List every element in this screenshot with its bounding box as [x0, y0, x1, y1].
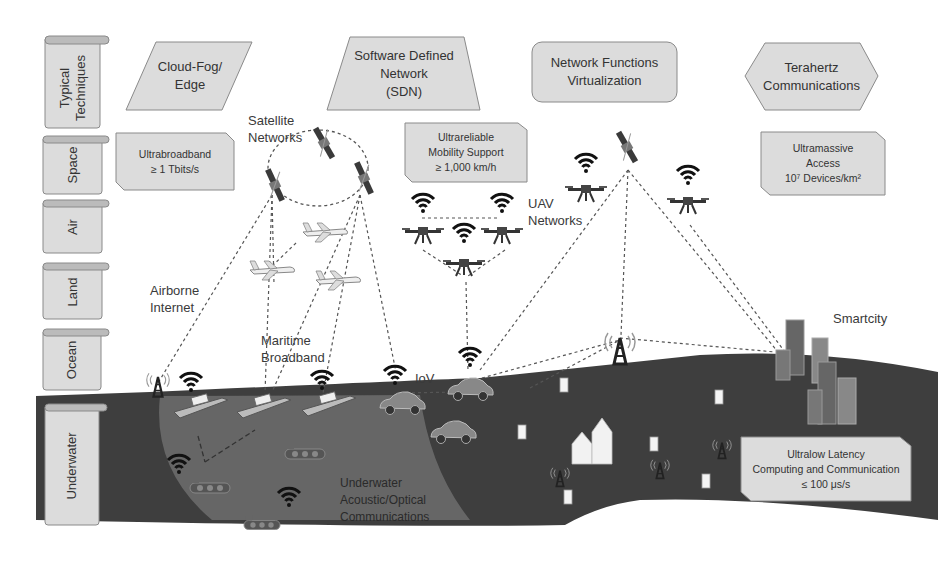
label-airborne-internet: Airborne Internet	[150, 282, 199, 316]
label-uav-networks: UAV Networks	[528, 195, 582, 229]
phone-icon	[518, 425, 526, 439]
wifi-icon	[677, 166, 699, 185]
technique-label: Network Functions Virtualization	[532, 42, 677, 102]
label-iov: IoV	[415, 370, 435, 387]
kpi-label: Ultralow Latency Computing and Communica…	[741, 437, 911, 501]
layer-label-underwater: Underwater	[64, 416, 80, 516]
kpi-label: Ultrareliable Mobility Support ≥ 1,000 k…	[405, 123, 527, 182]
airplane-icon	[250, 261, 295, 280]
technique-label: Terahertz Communications	[745, 43, 878, 110]
layer-label-ocean: Ocean	[64, 324, 80, 396]
drone-icon	[481, 227, 523, 244]
label-satellite-networks: Satellite Networks	[248, 112, 302, 146]
phone-icon	[650, 437, 658, 451]
satellite-icon	[348, 158, 380, 197]
phone-icon	[564, 490, 572, 504]
wifi-icon	[180, 373, 202, 392]
label-maritime-broadband: Maritime Broadband	[261, 332, 325, 366]
phone-icon	[560, 378, 568, 392]
wifi-icon	[575, 154, 597, 173]
satellite-icon	[610, 127, 644, 166]
technique-label: Cloud-Fog/ Edge	[140, 42, 240, 110]
satellite-icon	[307, 123, 341, 162]
drone-icon	[402, 227, 444, 244]
airplane-icon	[316, 271, 361, 290]
phone-icon	[715, 390, 723, 404]
technique-label: Software Defined Network (SDN)	[330, 37, 478, 110]
phone-icon	[702, 474, 710, 488]
drone-icon	[667, 197, 709, 214]
wifi-icon	[453, 224, 475, 243]
layer-label-space: Space	[65, 132, 81, 198]
label-smartcity: Smartcity	[833, 310, 887, 327]
layer-label-land: Land	[65, 259, 81, 325]
satellite-icon	[259, 165, 291, 204]
layer-label-air: Air	[65, 194, 81, 260]
wifi-icon	[459, 348, 481, 367]
kpi-label: Ultrabroadband ≥ 1 Tbits/s	[116, 133, 234, 190]
wifi-icon	[412, 194, 434, 213]
wifi-icon	[491, 194, 513, 213]
cell-tower-icon	[605, 333, 635, 364]
label-underwater-communications: Underwater Acoustic/Optical Communicatio…	[340, 475, 429, 526]
layer-label-techniques: Typical Techniques	[57, 40, 89, 136]
kpi-label: Ultramassive Access 10⁷ Devices/km²	[761, 132, 885, 195]
